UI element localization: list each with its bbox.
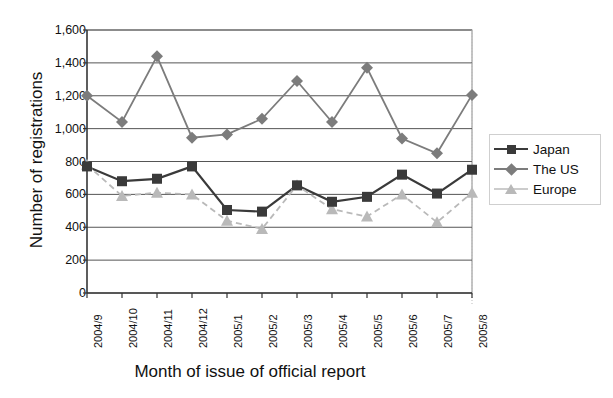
x-tick-label: 2005/1: [232, 314, 244, 348]
data-point-japan-2005-8: [467, 165, 477, 175]
legend-item-europe: Europe: [494, 179, 596, 199]
data-point-japan-2005-5: [362, 192, 372, 202]
data-point-japan-2005-2: [257, 207, 267, 217]
x-tick-label: 2004/10: [127, 308, 139, 348]
data-point-japan-2005-3: [292, 180, 302, 190]
x-tick-label: 2004/12: [197, 308, 209, 348]
data-point-japan-2004-10: [117, 176, 127, 186]
data-point-japan-2005-4: [327, 197, 337, 207]
x-tick-label: 2005/8: [477, 314, 489, 348]
line-chart: Number of registrations 02004006008001,0…: [0, 0, 613, 398]
x-tick-label: 2005/5: [372, 314, 384, 348]
data-point-japan-2005-6: [397, 170, 407, 180]
x-tick-label: 2005/6: [407, 314, 419, 348]
x-tick-label: 2005/7: [442, 314, 454, 348]
x-tick-label: 2005/4: [337, 314, 349, 348]
data-point-japan-2004-9: [82, 161, 92, 171]
chart-legend: Japan The US Europe: [489, 134, 601, 205]
data-point-japan-2004-12: [187, 161, 197, 171]
x-tick-label: 2005/3: [302, 314, 314, 348]
legend-label: Japan: [533, 142, 570, 157]
data-point-japan-2005-7: [432, 189, 442, 199]
legend-label: Europe: [533, 182, 577, 197]
x-axis-title: Month of issue of official report: [0, 362, 500, 382]
legend-label: The US: [533, 162, 579, 177]
square-marker-icon: [494, 142, 528, 156]
diamond-marker-icon: [494, 162, 528, 176]
data-point-japan-2005-1: [222, 205, 232, 215]
legend-item-japan: Japan: [494, 139, 596, 159]
triangle-marker-icon: [494, 182, 528, 196]
x-tick-label: 2005/2: [267, 314, 279, 348]
x-tick-label: 2004/9: [92, 314, 104, 348]
x-tick-label: 2004/11: [162, 309, 174, 348]
legend-item-the-us: The US: [494, 159, 596, 179]
data-point-japan-2004-11: [152, 174, 162, 184]
